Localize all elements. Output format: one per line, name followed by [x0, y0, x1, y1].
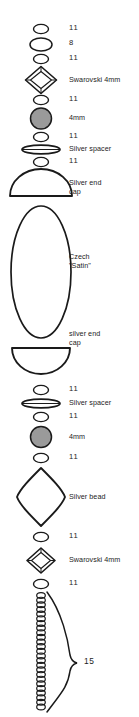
label-seed-11-top-4: 11	[69, 132, 79, 141]
bead-seed-11-mid-3	[34, 453, 49, 462]
bead-swarovski-top	[26, 67, 57, 94]
bead-endcap-top	[10, 169, 72, 196]
label-round-4mm-top: 4mm	[69, 114, 85, 123]
fringe-brace	[47, 592, 77, 712]
label-spacer-top: Silver spacer	[69, 145, 111, 154]
bead-endcap-bottom	[12, 348, 70, 374]
label-seed-11-mid-5: 11	[69, 579, 79, 588]
bead-shapes-layer	[0, 0, 139, 717]
bead-seed-11-mid-2	[34, 412, 49, 421]
bead-seed-11-mid-1	[34, 385, 49, 394]
label-seed-11-mid-2: 11	[69, 412, 79, 421]
label-swarovski-top: Swarovski 4mm	[69, 76, 120, 85]
label-czech-satin: Czech "Satin"	[69, 253, 91, 270]
bead-seed-11-top-3	[34, 95, 49, 104]
label-seed-11-mid-1: 11	[69, 385, 79, 394]
label-round-4mm-bottom: 4mm	[69, 433, 85, 442]
bead-sequence-diagram: 11 8 11 Swarovski 4mm 11 4mm 11 Silver s…	[0, 0, 139, 717]
fringe-bead-column	[37, 593, 46, 710]
bead-seed-11-mid-4	[34, 532, 49, 541]
bead-round-4mm-top	[31, 108, 52, 129]
bead-seed-11-top-2	[34, 54, 49, 63]
bead-seed-11-top-1	[34, 24, 49, 33]
bead-seed-11-mid-5	[34, 579, 49, 588]
bead-seed-8-top	[30, 38, 52, 51]
label-seed-8-top: 8	[69, 39, 74, 48]
label-seed-11-mid-4: 11	[69, 532, 79, 541]
label-endcap-top: Silver end cap	[69, 179, 101, 196]
label-seed-11-top-1: 11	[69, 24, 79, 33]
bead-seed-11-top-4	[34, 132, 49, 141]
label-seed-11-top-2: 11	[69, 54, 79, 63]
label-seed-11-mid-3: 11	[69, 453, 79, 462]
bead-czech-satin	[11, 206, 71, 338]
label-endcap-bottom: silver end cap	[69, 330, 100, 347]
bead-round-4mm-bottom	[31, 427, 52, 448]
bead-silver-rhombus	[17, 468, 65, 526]
label-fringe-count: 15	[84, 657, 95, 666]
label-seed-11-top-3: 11	[69, 95, 79, 104]
label-seed-11-top-5: 11	[69, 157, 79, 166]
label-swarovski-bottom: Swarovski 4mm	[69, 556, 120, 565]
bead-swarovski-bottom	[27, 548, 55, 573]
bead-seed-11-top-5	[34, 157, 49, 166]
label-silver-bead: Silver bead	[69, 493, 106, 502]
label-spacer-bottom: Silver spacer	[69, 399, 111, 408]
